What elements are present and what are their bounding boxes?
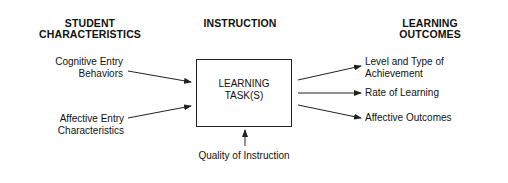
arrow-box-to-achievement [298, 66, 361, 80]
arrow-cognitive-to-box [128, 71, 191, 82]
arrow-box-to-affective-outcomes [298, 105, 361, 118]
arrows-layer [0, 0, 508, 183]
arrow-affective-to-box [128, 106, 191, 118]
